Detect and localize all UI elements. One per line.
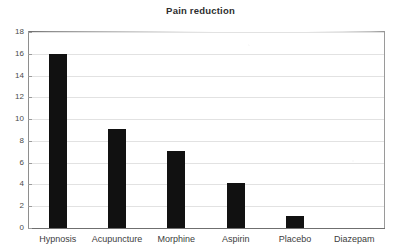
y-axis-tick-label: 8: [2, 137, 24, 145]
y-axis-tick-label: 10: [2, 115, 24, 123]
bars-layer: [28, 32, 384, 228]
plot-frame-right: [384, 31, 385, 229]
y-axis-tick-label: 18: [2, 28, 24, 36]
bar[interactable]: [108, 129, 126, 228]
chart-title: Pain reduction: [0, 5, 401, 16]
y-axis-tick-mark: [28, 184, 32, 185]
y-axis-tick-mark: [28, 228, 32, 229]
y-axis-tick-label: 14: [2, 72, 24, 80]
bar[interactable]: [167, 151, 185, 228]
y-axis-labels: 024681012141618: [0, 32, 24, 228]
x-axis-tick-label: Morphine: [158, 233, 196, 245]
x-axis-line: [28, 228, 385, 229]
bar[interactable]: [49, 54, 67, 228]
y-axis-tick-mark: [28, 206, 32, 207]
y-axis-tick-label: 2: [2, 202, 24, 210]
y-axis-tick-mark: [28, 76, 32, 77]
y-axis-tick-mark: [28, 97, 32, 98]
y-axis-tick-mark: [28, 141, 32, 142]
bar[interactable]: [286, 216, 304, 228]
y-axis-tick-label: 4: [2, 180, 24, 188]
x-axis-tick-label: Aspirin: [222, 233, 250, 245]
x-axis-tick-label: Placebo: [279, 233, 312, 245]
x-axis-labels: HypnosisAcupunctureMorphineAspirinPlaceb…: [28, 233, 384, 249]
y-axis-tick-label: 0: [2, 224, 24, 232]
bar-chart-figure: Pain reduction 024681012141618 HypnosisA…: [0, 0, 401, 252]
y-axis-tick-mark: [28, 119, 32, 120]
y-axis-tick-label: 16: [2, 50, 24, 58]
x-axis-tick-label: Diazepam: [334, 233, 375, 245]
y-axis-tick-mark: [28, 32, 32, 33]
y-axis-tick-mark: [28, 54, 32, 55]
x-axis-tick-label: Hypnosis: [39, 233, 76, 245]
y-axis-tick-mark: [28, 163, 32, 164]
y-axis-tick-label: 6: [2, 159, 24, 167]
y-axis-tick-label: 12: [2, 93, 24, 101]
x-axis-tick-label: Acupuncture: [92, 233, 143, 245]
bar[interactable]: [227, 183, 245, 228]
